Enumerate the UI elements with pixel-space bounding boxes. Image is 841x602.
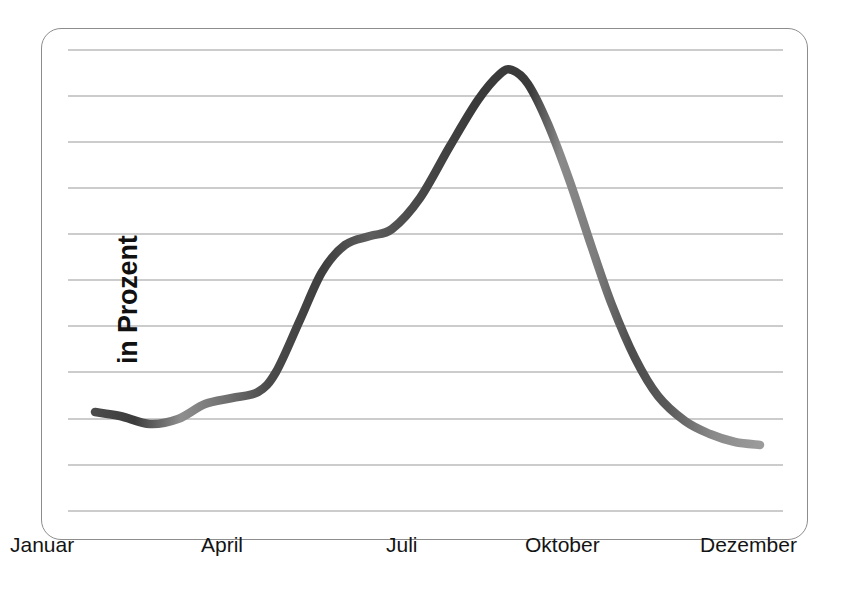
x-tick-label-januar: Januar <box>10 533 74 557</box>
x-tick-label-juli: Juli <box>386 533 418 557</box>
y-axis-label: in Prozent <box>113 235 144 364</box>
x-axis-tick-labels: JanuarAprilJuliOktoberDezember <box>0 533 841 567</box>
x-tick-label-april: April <box>201 533 243 557</box>
x-tick-label-oktober: Oktober <box>525 533 600 557</box>
data-curve-line <box>95 69 760 445</box>
chart-root: in Prozent JanuarAprilJuliOktoberDezembe… <box>0 0 841 602</box>
gridlines <box>68 50 783 511</box>
x-tick-label-dezember: Dezember <box>700 533 797 557</box>
